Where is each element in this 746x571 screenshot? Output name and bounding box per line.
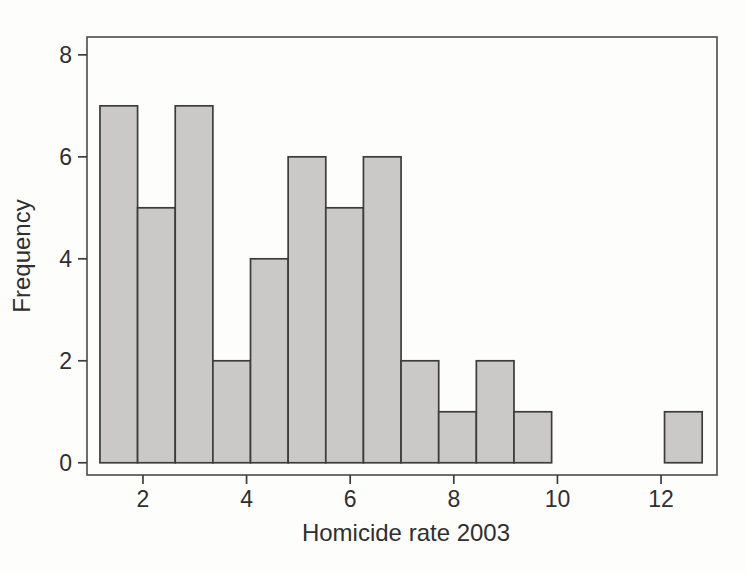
histogram-chart: 24681012 02468 Homicide rate 2003 Freque… [0, 0, 746, 571]
histogram-bar [401, 361, 439, 463]
x-tick-label: 8 [447, 486, 460, 512]
y-axis: 02468 [59, 42, 87, 476]
y-axis-title: Frequency [8, 199, 35, 312]
x-tick-label: 4 [240, 486, 253, 512]
histogram-bar [138, 208, 176, 463]
histogram-bar [476, 361, 514, 463]
histogram-bar [288, 157, 326, 463]
histogram-figure: 24681012 02468 Homicide rate 2003 Freque… [0, 0, 746, 571]
histogram-bar [514, 412, 552, 463]
x-axis: 24681012 [137, 475, 674, 512]
x-tick-label: 6 [344, 486, 357, 512]
y-tick-label: 8 [59, 42, 72, 68]
x-tick-label: 12 [648, 486, 674, 512]
y-tick-label: 0 [59, 450, 72, 476]
histogram-bar [251, 259, 289, 463]
histogram-bar [175, 106, 213, 463]
y-tick-label: 2 [59, 348, 72, 374]
histogram-bar [213, 361, 251, 463]
y-tick-label: 6 [59, 144, 72, 170]
x-tick-label: 10 [545, 486, 571, 512]
histogram-bar [439, 412, 477, 463]
bars-layer [100, 106, 702, 463]
x-tick-label: 2 [137, 486, 150, 512]
histogram-bar [100, 106, 138, 463]
y-tick-label: 4 [59, 246, 72, 272]
histogram-bar [326, 208, 364, 463]
histogram-bar [665, 412, 703, 463]
histogram-bar [363, 157, 401, 463]
x-axis-title: Homicide rate 2003 [302, 519, 510, 546]
